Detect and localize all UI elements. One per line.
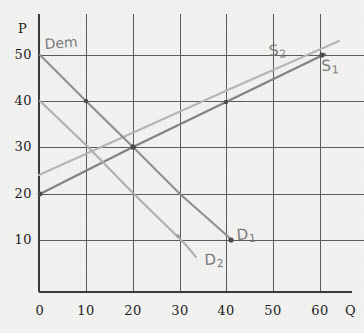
annotation-s1-label: S1 — [321, 56, 339, 77]
curve-D2 — [40, 101, 196, 257]
point-d1-mid — [84, 99, 88, 103]
annotation-d2-label: D2 — [204, 250, 224, 271]
x-tick-40: 40 — [214, 303, 238, 318]
x-tick-60: 60 — [308, 303, 332, 318]
d1-letter: D — [236, 225, 249, 244]
point-d1-end — [228, 237, 233, 242]
d2-subscript: 2 — [216, 257, 224, 270]
point-equilibrium-1 — [130, 144, 135, 149]
curve-lines — [39, 41, 339, 257]
x-tick-30: 30 — [168, 303, 192, 318]
x-tick-10: 10 — [74, 303, 98, 318]
s2-letter: S — [268, 41, 279, 60]
s1-letter: S — [321, 57, 331, 75]
d1-subscript: 1 — [249, 232, 257, 245]
annotation-s2-label: S2 — [268, 40, 287, 62]
y-axis-title: P — [18, 21, 27, 36]
point-d2-mid — [176, 234, 180, 238]
chart-root: 50 40 30 20 10 0 10 20 30 40 50 60 P Q D… — [0, 0, 364, 333]
curve-S2 — [39, 41, 339, 175]
x-tick-50: 50 — [261, 303, 285, 318]
y-tick-20: 20 — [6, 186, 32, 201]
point-origin-s1 — [38, 192, 43, 197]
x-tick-20: 20 — [121, 303, 145, 318]
annotation-dem-label: Dem — [44, 34, 78, 52]
x-axis-title: Q — [345, 303, 356, 318]
annotation-d1-label: D1 — [236, 225, 256, 247]
y-tick-30: 30 — [6, 139, 32, 154]
x-tick-0: 0 — [34, 303, 46, 318]
s1-subscript: 1 — [331, 64, 339, 77]
curve-S1 — [40, 54, 325, 194]
y-tick-50: 50 — [6, 47, 32, 62]
y-tick-10: 10 — [6, 232, 32, 247]
s2-subscript: 2 — [279, 48, 287, 62]
y-tick-40: 40 — [6, 93, 32, 108]
d2-letter: D — [204, 250, 216, 269]
point-s1-mid — [224, 100, 228, 104]
